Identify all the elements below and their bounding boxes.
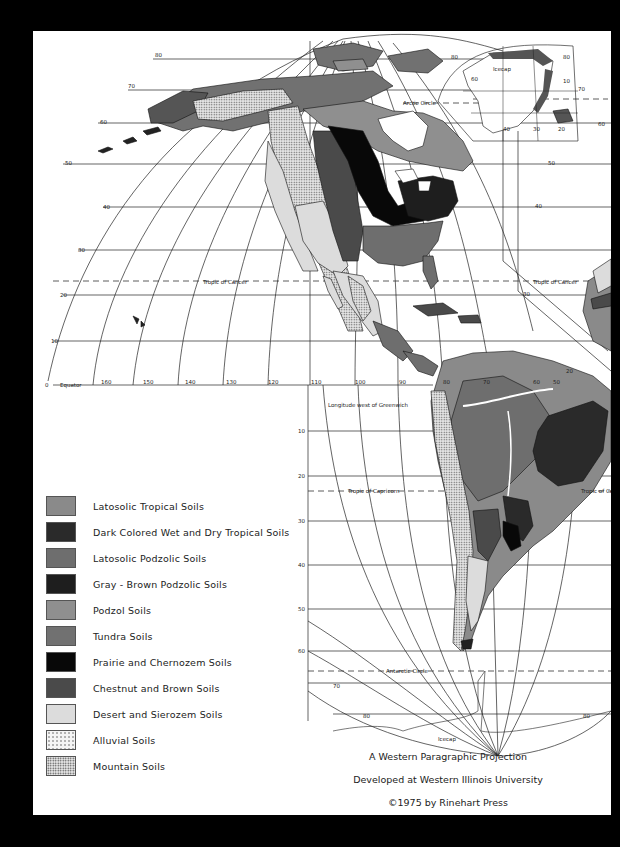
legend-swatch (46, 756, 76, 776)
legend-label: Latosolic Tropical Soils (93, 501, 204, 512)
svg-text:80: 80 (563, 54, 570, 60)
legend-label: Gray - Brown Podzolic Soils (93, 579, 227, 590)
svg-text:30: 30 (298, 518, 305, 524)
svg-text:110: 110 (311, 379, 322, 385)
svg-text:50: 50 (548, 160, 555, 166)
legend-swatch (46, 574, 76, 594)
antarctic-circle-label: Antarctic Circle (386, 668, 428, 674)
svg-text:80: 80 (451, 54, 458, 60)
institution-credit: Developed at Western Illinois University (333, 768, 563, 791)
svg-text:100: 100 (355, 379, 366, 385)
legend-swatch (46, 704, 76, 724)
antarctica (333, 671, 611, 732)
svg-text:40: 40 (103, 204, 110, 210)
svg-text:150: 150 (143, 379, 154, 385)
svg-text:80: 80 (363, 713, 370, 719)
svg-text:130: 130 (226, 379, 237, 385)
svg-text:70: 70 (128, 83, 135, 89)
tropic-of-cancer-label: Tropic of Cancer (202, 279, 248, 286)
legend-item-podzol: Podzol Soils (46, 599, 76, 621)
svg-text:60: 60 (533, 379, 540, 385)
svg-text:20: 20 (558, 126, 565, 132)
legend-label: Latosolic Podzolic Soils (93, 553, 206, 564)
svg-text:30: 30 (523, 291, 530, 297)
legend-item-chestnut-brown: Chestnut and Brown Soils (46, 677, 76, 699)
legend-item-latosolic-tropical: Latosolic Tropical Soils (46, 495, 76, 517)
legend-label: Chestnut and Brown Soils (93, 683, 220, 694)
legend-swatch (46, 496, 76, 516)
south-america (403, 259, 611, 651)
legend-label: Tundra Soils (93, 631, 153, 642)
svg-text:40: 40 (503, 126, 510, 132)
tropic-of-capricorn-label-right: Tropic of Capricorn (580, 488, 611, 495)
legend-item-latosolic-podzolic: Latosolic Podzolic Soils (46, 547, 76, 569)
svg-text:50: 50 (298, 606, 305, 612)
projection-title: A Western Paragraphic Projection (333, 745, 563, 768)
legend-item-mountain: Mountain Soils (46, 755, 76, 777)
svg-text:10: 10 (51, 338, 58, 344)
legend-swatch (46, 652, 76, 672)
svg-text:50: 50 (65, 160, 72, 166)
svg-text:120: 120 (268, 379, 279, 385)
svg-text:30: 30 (78, 247, 85, 253)
legend-label: Podzol Soils (93, 605, 151, 616)
svg-text:70: 70 (483, 379, 490, 385)
svg-text:40: 40 (535, 203, 542, 209)
svg-text:30: 30 (533, 126, 540, 132)
north-america (98, 43, 481, 361)
svg-text:60: 60 (298, 648, 305, 654)
longitude-caption: Longitude west of Greenwich (328, 402, 409, 409)
svg-text:70: 70 (333, 683, 340, 689)
svg-text:50: 50 (553, 379, 560, 385)
svg-text:70: 70 (578, 86, 585, 92)
svg-text:80: 80 (155, 52, 162, 58)
legend-item-tundra: Tundra Soils (46, 625, 76, 647)
copyright-notice: ©1975 by Rinehart Press (333, 791, 563, 814)
legend-item-prairie-chernozem: Prairie and Chernozem Soils (46, 651, 76, 673)
legend-item-dark-colored-tropical: Dark Colored Wet and Dry Tropical Soils (46, 521, 76, 543)
svg-text:80: 80 (443, 379, 450, 385)
legend-swatch (46, 548, 76, 568)
legend-swatch (46, 522, 76, 542)
svg-text:60: 60 (598, 121, 605, 127)
legend-label: Prairie and Chernozem Soils (93, 657, 232, 668)
svg-text:160: 160 (101, 379, 112, 385)
legend-label: Dark Colored Wet and Dry Tropical Soils (93, 527, 289, 538)
legend-item-desert-sierozem: Desert and Sierozem Soils (46, 703, 76, 725)
map-credits: A Western Paragraphic Projection Develop… (333, 745, 563, 814)
svg-text:20: 20 (566, 368, 573, 374)
legend-swatch (46, 600, 76, 620)
svg-text:10: 10 (563, 78, 570, 84)
legend-label: Mountain Soils (93, 761, 165, 772)
svg-text:80: 80 (583, 713, 590, 719)
arctic-circle-label: Arctic Circle (403, 100, 436, 106)
greenland-icecap-label: Icecap (493, 66, 511, 73)
svg-text:90: 90 (399, 379, 406, 385)
svg-text:20: 20 (60, 292, 67, 298)
legend-item-gray-brown-podzolic: Gray - Brown Podzolic Soils (46, 573, 76, 595)
tropic-of-capricorn-label: Tropic of Capricorn (347, 488, 400, 495)
svg-text:0: 0 (45, 382, 49, 388)
antarctic-icecap-label: Icecap (438, 736, 456, 743)
svg-text:40: 40 (298, 562, 305, 568)
equator-label: Equator (60, 382, 82, 389)
svg-text:10: 10 (298, 428, 305, 434)
legend-label: Alluvial Soils (93, 735, 155, 746)
svg-text:60: 60 (100, 119, 107, 125)
soil-map: 80 70 60 50 40 30 20 10 0 Equator 160 15… (33, 31, 611, 815)
svg-text:140: 140 (185, 379, 196, 385)
map-page: 80 70 60 50 40 30 20 10 0 Equator 160 15… (33, 31, 611, 815)
legend-swatch (46, 730, 76, 750)
svg-text:60: 60 (471, 76, 478, 82)
tropic-of-cancer-label-right: Tropic of Cancer (532, 279, 578, 286)
legend-swatch (46, 626, 76, 646)
legend-swatch (46, 678, 76, 698)
legend-label: Desert and Sierozem Soils (93, 709, 223, 720)
svg-text:20: 20 (298, 473, 305, 479)
legend-item-alluvial: Alluvial Soils (46, 729, 76, 751)
